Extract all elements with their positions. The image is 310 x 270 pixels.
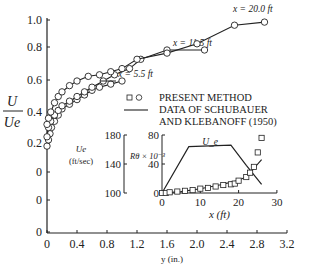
x-tick-label: 2.4 [220,237,235,251]
data-point-circle [194,41,200,47]
legend-circle-icon [136,95,142,101]
x-axis-label: y (in.) [161,254,183,264]
data-point-circle [44,143,50,149]
inset-ue-annotation: U_e [202,137,218,147]
chart-container: 00.40.81.21.62.02.42.83.2y (in.)1.00.80.… [0,0,310,270]
inset-x-tick-label: 0 [159,196,165,208]
inset-data-square [213,184,218,189]
inset-ue-tick-label: 140 [105,158,122,170]
inset-rtheta-label: Rθ × 10⁻³ [129,151,165,161]
inset-ue-tick-label: 180 [105,129,122,141]
inset-x-axis-label: x (ft) [208,208,230,221]
data-point-circle [66,98,72,104]
data-point-circle [164,50,170,56]
y-tick-label: 0.8 [27,40,42,54]
inset-x-tick-label: 20 [233,196,245,208]
y-tick-label: 0 [36,193,42,207]
inset-data-square [236,178,241,183]
legend-label-data-line1: DATA OF SCHUBAUER [159,104,268,115]
inset-ue-units: (ft/sec) [69,156,93,166]
inset-rtheta-tick-label: 80 [148,129,160,141]
y-tick-label: 0 [36,225,42,239]
data-point-circle [59,89,65,95]
inset-x-tick-label: 10 [195,196,207,208]
data-point-circle [85,73,91,79]
x-tick-label: 2.8 [250,237,265,251]
data-point-circle [81,89,87,95]
inset-x-tick-label: 30 [271,196,283,208]
data-point-circle [261,19,267,25]
data-point-circle [96,72,102,78]
data-point-circle [89,84,95,90]
data-point-circle [74,93,80,99]
y-tick-label: 0 [36,165,42,179]
y-axis-label-denominator: Ue [4,115,20,130]
data-point-circle [59,103,65,109]
x-tick-label: 0 [44,237,50,251]
data-point-circle [48,109,54,115]
x-tick-label: 1.2 [130,237,145,251]
data-point-circle [74,78,80,84]
x-tick-label: 1.6 [160,237,175,251]
inset-data-square [251,164,256,169]
y-tick-label: 0.4 [27,105,42,119]
inset-data-square [205,185,210,190]
legend-label-present-method: PRESENT METHOD [159,92,252,103]
x-tick-label: 3.2 [280,237,295,251]
data-point-circle [134,56,140,62]
inset-ue-tick-label: 100 [105,187,122,199]
y-axis-label-numerator: U [7,94,18,109]
inset-data-square [247,170,252,175]
x-tick-label: 0.8 [100,237,115,251]
inset-ue-line [162,145,262,193]
inset-data-square [167,190,172,195]
legend-label-data-line2: AND KLEBANOFF (1950) [159,116,277,128]
inset-ue-label: Ue [76,144,87,154]
inset-data-square [221,182,226,187]
data-point-circle [44,121,50,127]
data-point-circle [66,82,72,88]
data-point-circle [108,69,114,75]
inset-data-square [255,150,260,155]
y-tick-label: 0.6 [27,73,42,87]
series-annotation: x = 20.0 ft [232,4,273,14]
inset-data-square [190,188,195,193]
data-point-circle [51,100,57,106]
inset-data-square [175,189,180,194]
x-tick-label: 2.0 [190,237,205,251]
data-point-circle [119,65,125,71]
data-point-circle [108,81,114,87]
x-tick-label: 0.4 [70,237,85,251]
y-tick-label: 1.0 [27,13,42,27]
data-point-circle [96,84,102,90]
inset-data-square [259,135,264,140]
data-point-circle [44,134,50,140]
inset-data-square [182,188,187,193]
legend-square-icon [127,95,132,100]
data-point-circle [126,65,132,71]
inset-data-square [198,186,203,191]
data-point-circle [45,115,51,121]
y-tick-label: 0.2 [27,136,42,150]
chart-svg: 00.40.81.21.62.02.42.83.2y (in.)1.00.80.… [0,0,310,270]
data-point-circle [231,22,237,28]
